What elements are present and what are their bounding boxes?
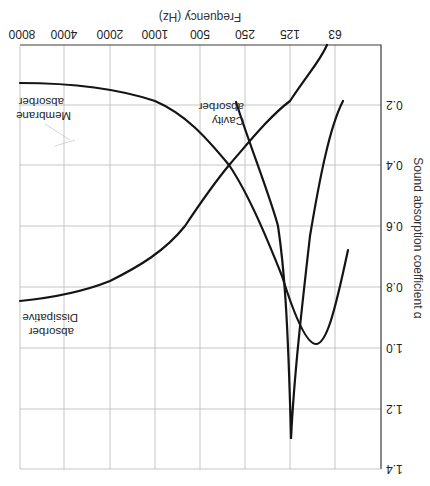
svg-text:1.0: 1.0 — [386, 341, 403, 355]
dissipative-absorber-curve — [20, 45, 327, 301]
cavity-label: Cavity absorber — [198, 101, 244, 127]
absorption-chart: Membrane absorber Cavity absorber Dissip… — [0, 0, 430, 486]
svg-text:absorber: absorber — [18, 96, 64, 108]
svg-text:4000: 4000 — [50, 27, 77, 41]
chart-rotated-group: Membrane absorber Cavity absorber Dissip… — [8, 10, 425, 476]
svg-text:1000: 1000 — [141, 27, 168, 41]
svg-text:1.2: 1.2 — [386, 402, 403, 416]
svg-text:0.6: 0.6 — [386, 219, 403, 233]
svg-text:Dissipative: Dissipative — [22, 312, 78, 324]
cavity-absorber-curve — [236, 101, 343, 439]
dissipative-label: Dissipative absorber — [22, 312, 78, 338]
svg-text:0.8: 0.8 — [386, 280, 403, 294]
svg-text:1.4: 1.4 — [386, 462, 403, 476]
svg-text:8000: 8000 — [8, 27, 35, 41]
svg-text:63: 63 — [328, 27, 342, 41]
x-tick-labels: 63 125 250 500 1000 2000 4000 8000 — [8, 27, 341, 41]
pencil-check-mark — [45, 124, 75, 146]
membrane-label: Membrane absorber — [16, 96, 71, 122]
svg-text:250: 250 — [235, 27, 255, 41]
svg-text:125: 125 — [280, 27, 300, 41]
svg-text:0.4: 0.4 — [386, 158, 403, 172]
svg-text:absorber: absorber — [198, 101, 244, 113]
svg-text:absorber: absorber — [28, 326, 74, 338]
svg-text:0.2: 0.2 — [386, 98, 403, 112]
y-axis-label: Sound absorption coefficient α — [411, 157, 425, 319]
y-tick-labels: 0.2 0.4 0.6 0.8 1.0 1.2 1.4 — [386, 98, 403, 476]
svg-text:Membrane: Membrane — [16, 110, 71, 122]
x-axis-label: Frequency (Hz) — [159, 10, 242, 24]
svg-text:500: 500 — [190, 27, 210, 41]
svg-text:2000: 2000 — [96, 27, 123, 41]
svg-text:Cavity: Cavity — [212, 115, 244, 127]
